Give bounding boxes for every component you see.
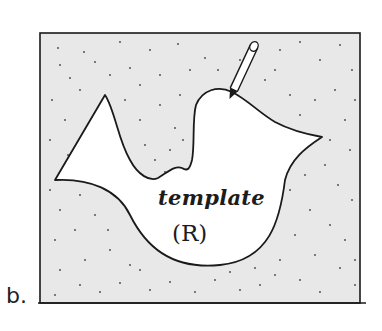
- panel-label: b.: [6, 283, 27, 308]
- figure-canvas: [0, 0, 382, 331]
- template-label: template: [158, 185, 265, 210]
- template-symbol: (R): [172, 220, 207, 246]
